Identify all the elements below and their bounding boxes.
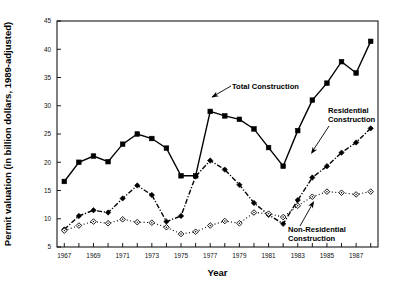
- data-point-marker: [310, 98, 315, 103]
- series-total-construction: [62, 39, 373, 184]
- data-point-marker: [281, 164, 286, 169]
- data-point-center: [370, 191, 371, 192]
- data-point-marker: [295, 128, 300, 133]
- data-point-center: [326, 191, 327, 192]
- data-point-marker: [368, 39, 373, 44]
- data-point-marker: [91, 208, 96, 213]
- y-axis-tick-label: 35: [44, 74, 52, 81]
- x-axis-tick-label: 1987: [349, 252, 364, 259]
- data-point-marker: [325, 81, 330, 86]
- data-point-center: [341, 192, 342, 193]
- x-axis-tick-label: 1973: [145, 252, 160, 259]
- data-point-marker: [135, 132, 140, 137]
- data-point-marker: [237, 117, 242, 122]
- annotation-arrow-non-residential: [308, 200, 316, 209]
- arrow-head: [309, 147, 317, 156]
- data-point-center: [224, 220, 225, 221]
- data-point-center: [195, 231, 196, 232]
- x-axis-title: Year: [207, 267, 227, 278]
- data-point-center: [137, 221, 138, 222]
- data-point-center: [93, 221, 94, 222]
- data-point-center: [166, 227, 167, 228]
- data-point-center: [64, 230, 65, 231]
- data-point-center: [355, 194, 356, 195]
- data-point-marker: [354, 71, 359, 76]
- x-axis-tick-label: 1977: [203, 252, 218, 259]
- y-axis-tick-label: 40: [44, 46, 52, 53]
- chart-container: 5101520253035404519671969197119731975197…: [0, 0, 400, 291]
- data-point-center: [297, 205, 298, 206]
- x-axis-tick-label: 1981: [261, 252, 276, 259]
- annotation-leader-residential: [312, 126, 329, 152]
- data-point-marker: [266, 145, 271, 150]
- data-point-center: [312, 196, 313, 197]
- annotation-arrow-residential: [309, 147, 317, 156]
- annotation-label-total-construction: Total Construction: [232, 82, 299, 91]
- permit-valuation-line-chart: 5101520253035404519671969197119731975197…: [0, 0, 400, 291]
- data-point-marker: [222, 114, 227, 119]
- arrow-head: [308, 200, 316, 209]
- data-point-center: [239, 223, 240, 224]
- data-point-marker: [339, 59, 344, 64]
- data-point-marker: [164, 219, 169, 224]
- annotation-label-non-residential-line2: Construction: [288, 234, 336, 243]
- annotation-label-residential-line2: Construction: [328, 115, 376, 124]
- x-axis-tick-label: 1967: [57, 252, 72, 259]
- y-axis-tick-label: 10: [44, 215, 52, 222]
- data-point-center: [282, 216, 283, 217]
- series-residential-construction: [62, 126, 374, 233]
- data-point-marker: [106, 159, 111, 164]
- x-axis-tick-label: 1985: [320, 252, 335, 259]
- y-axis-tick-label: 20: [44, 159, 52, 166]
- y-axis-title: Permit valuation (in billion dollars, 19…: [2, 22, 13, 246]
- data-point-center: [180, 233, 181, 234]
- data-point-marker: [208, 109, 213, 114]
- y-axis-tick-label: 30: [44, 102, 52, 109]
- data-point-marker: [179, 174, 184, 179]
- data-point-center: [253, 212, 254, 213]
- data-point-center: [78, 225, 79, 226]
- x-axis-tick-label: 1979: [232, 252, 247, 259]
- data-point-marker: [120, 142, 125, 147]
- data-point-marker: [178, 213, 183, 218]
- data-point-marker: [77, 160, 82, 165]
- data-point-center: [122, 219, 123, 220]
- annotation-arrow-total-construction: [210, 92, 219, 100]
- data-point-marker: [164, 146, 169, 151]
- data-point-marker: [62, 179, 67, 184]
- series-line: [64, 128, 370, 229]
- data-point-center: [268, 213, 269, 214]
- arrow-head: [210, 92, 219, 100]
- annotation-leader-non-residential: [300, 203, 313, 226]
- x-axis-tick-label: 1969: [86, 252, 101, 259]
- data-point-marker: [91, 154, 96, 159]
- data-point-center: [151, 222, 152, 223]
- annotation-label-residential-line1: Residential: [328, 106, 369, 115]
- x-axis-tick-label: 1983: [291, 252, 306, 259]
- y-axis-tick-label: 45: [44, 17, 52, 24]
- x-axis-tick-label: 1975: [174, 252, 189, 259]
- data-point-marker: [150, 136, 155, 141]
- annotation-label-non-residential-line1: Non-Residential: [288, 225, 346, 234]
- x-axis-tick-label: 1971: [116, 252, 131, 259]
- plot-frame: [57, 21, 378, 247]
- data-point-marker: [252, 127, 257, 132]
- data-point-center: [210, 225, 211, 226]
- data-point-center: [107, 223, 108, 224]
- y-axis-tick-label: 25: [44, 130, 52, 137]
- y-axis-tick-label: 5: [47, 243, 51, 250]
- y-axis-tick-label: 15: [44, 187, 52, 194]
